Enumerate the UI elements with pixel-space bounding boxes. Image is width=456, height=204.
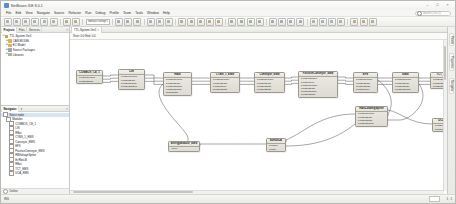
layout-button[interactable] <box>296 18 304 26</box>
block-port[interactable]: PortOutLine <box>354 88 377 91</box>
port-pin-right[interactable] <box>284 88 285 90</box>
port-pin-left[interactable] <box>353 85 354 87</box>
port-pin-left[interactable] <box>298 93 299 95</box>
zoom-out-button[interactable] <box>228 18 236 26</box>
new-file-button[interactable] <box>360 18 368 26</box>
rail-tab-navigator[interactable]: Navigator <box>449 78 455 95</box>
continue-button[interactable] <box>178 18 186 26</box>
port-pin-left[interactable] <box>298 80 299 82</box>
stop-button[interactable] <box>197 18 205 26</box>
editor-tab[interactable]: TTL-System-Ver1 × <box>71 26 102 33</box>
port-pin-left[interactable] <box>210 81 211 83</box>
diagram-canvas-wrapper[interactable]: COMBOX_CE_1PortOutParamPortOutDataLINPor… <box>70 40 447 194</box>
profile-project-button[interactable] <box>133 18 141 26</box>
settings-button[interactable] <box>328 18 336 26</box>
port-pin-right[interactable] <box>337 87 338 89</box>
port-pin-right[interactable] <box>191 85 192 87</box>
port-pin-left[interactable] <box>298 90 299 92</box>
step-into-button[interactable] <box>156 18 164 26</box>
port-pin-right[interactable] <box>144 85 145 87</box>
port-pin-left[interactable] <box>254 81 255 83</box>
chevron-down-icon[interactable]: ▾ <box>107 20 108 23</box>
minimize-button[interactable]: – <box>425 4 430 8</box>
tree-node[interactable]: ⊕Libraries <box>2 52 69 57</box>
save-all-button[interactable] <box>31 18 39 26</box>
port-pin-right[interactable] <box>239 88 240 90</box>
port-pin-right[interactable] <box>191 88 192 90</box>
menu-item-view[interactable]: View <box>23 11 34 15</box>
pause-button[interactable] <box>187 18 195 26</box>
port-pin-right[interactable] <box>102 79 103 81</box>
port-pin-right[interactable] <box>337 77 338 79</box>
port-pin-right[interactable] <box>337 90 338 92</box>
port-pin-right[interactable] <box>191 81 192 83</box>
block-port[interactable]: Value <box>169 147 199 150</box>
menu-item-edit[interactable]: Edit <box>14 11 24 15</box>
diagram-block[interactable]: Conveyor_EMSPortOutParamPortOutDataPortO… <box>254 72 285 93</box>
port-pin-left[interactable] <box>392 88 393 90</box>
close-button[interactable]: × <box>445 4 450 8</box>
port-pin-right[interactable] <box>377 85 378 87</box>
block-port[interactable]: PortOutStatus <box>119 85 144 88</box>
port-pin-left[interactable] <box>298 77 299 79</box>
port-pin-left[interactable] <box>76 76 77 78</box>
help-button[interactable] <box>337 18 345 26</box>
port-pin-left[interactable] <box>254 78 255 80</box>
port-pin-right[interactable] <box>387 119 388 121</box>
block-port[interactable]: PortIn <box>267 148 285 151</box>
port-pin-right[interactable] <box>284 85 285 87</box>
block-port[interactable]: PortOutState <box>211 88 239 91</box>
step-over-button[interactable] <box>147 18 155 26</box>
canvas-vertical-scrollbar[interactable] <box>443 40 447 191</box>
port-pin-left[interactable] <box>298 87 299 89</box>
port-pin-right[interactable] <box>239 85 240 87</box>
port-pin-left[interactable] <box>392 85 393 87</box>
align-left-button[interactable] <box>269 18 277 26</box>
rail-tab-palette[interactable]: Palette <box>449 33 455 46</box>
quick-search-box[interactable]: Search (Ctrl+I) <box>415 11 451 16</box>
port-pin-left[interactable] <box>355 122 356 124</box>
port-pin-right[interactable] <box>377 81 378 83</box>
port-pin-left[interactable] <box>210 88 211 90</box>
port-pin-left[interactable] <box>76 79 77 81</box>
refresh-button[interactable] <box>350 18 358 26</box>
menu-item-run[interactable]: Run <box>83 11 93 15</box>
diagram-block[interactable]: CYBS_1_EMSPortOutParamPortOutDataPortOut… <box>210 72 240 93</box>
menu-item-team[interactable]: Team <box>121 11 133 15</box>
generate-code-button[interactable] <box>206 18 214 26</box>
align-center-button[interactable] <box>278 18 286 26</box>
configuration-combo[interactable]: <default config>▾ <box>86 19 110 25</box>
port-pin-right[interactable] <box>284 81 285 83</box>
port-pin-right[interactable] <box>418 78 419 80</box>
port-pin-left[interactable] <box>392 81 393 83</box>
port-pin-left[interactable] <box>355 112 356 114</box>
port-pin-right[interactable] <box>102 76 103 78</box>
port-pin-left[interactable] <box>392 78 393 80</box>
diagram-block[interactable]: EcRbxLBPortOutPortIn <box>266 138 286 152</box>
maximize-button[interactable]: □ <box>435 4 440 8</box>
port-pin-left[interactable] <box>118 78 119 80</box>
diagram-block[interactable]: EnergyModule_EMSValue <box>168 141 200 152</box>
navigator-list[interactable]: Select nodeModulesCOMBOX_CE_1LINRBatCYBS… <box>1 112 69 188</box>
diagram-block[interactable]: EBatPortOutParamPortOutDataPortOutStateP… <box>392 72 419 93</box>
run-project-button[interactable] <box>115 18 123 26</box>
port-pin-left[interactable] <box>118 75 119 77</box>
port-pin-right[interactable] <box>337 93 338 95</box>
new-project-button[interactable] <box>369 18 377 26</box>
menu-item-profile[interactable]: Profile <box>107 11 121 15</box>
port-pin-right[interactable] <box>418 88 419 90</box>
diagram-block[interactable]: EFSPortOutParamPortOutDataPortOutStatePo… <box>353 72 378 93</box>
port-pin-right[interactable] <box>199 147 200 149</box>
vscroll-thumb[interactable] <box>444 46 446 80</box>
diagram-block[interactable]: COMBOX_CE_1PortOutParamPortOutData <box>76 70 103 84</box>
block-port[interactable]: PortOutSignal <box>393 88 418 91</box>
validate-button[interactable] <box>310 18 318 26</box>
port-pin-right[interactable] <box>377 78 378 80</box>
port-pin-left[interactable] <box>118 85 119 87</box>
projects-close-icon[interactable]: × <box>66 28 68 32</box>
port-pin-right[interactable] <box>144 82 145 84</box>
port-pin-left[interactable] <box>210 85 211 87</box>
new-project-button[interactable] <box>13 18 21 26</box>
port-pin-right[interactable] <box>239 78 240 80</box>
diagram-block[interactable]: PositiveConveyor_EMSPortOutStatusPortOut… <box>298 71 338 98</box>
